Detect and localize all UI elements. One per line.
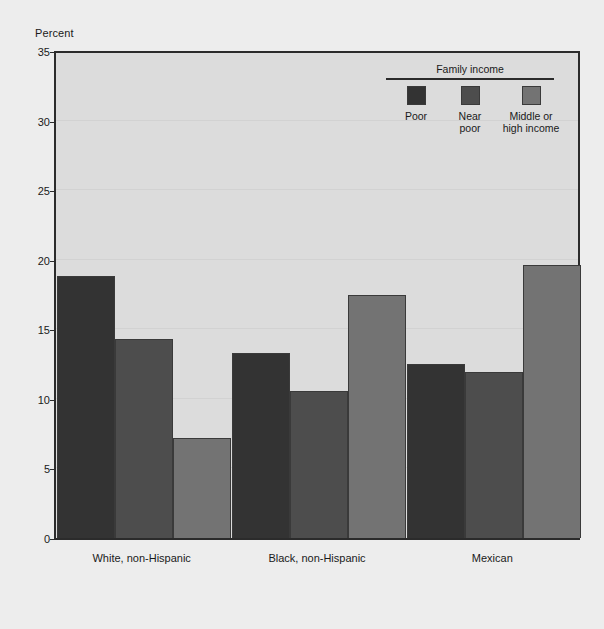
legend: Family income PoorNear poorMiddle or hig… — [386, 63, 554, 148]
bar — [290, 391, 348, 538]
legend-swatch — [461, 86, 480, 105]
bar — [348, 295, 406, 539]
legend-item: Poor — [394, 86, 438, 122]
legend-label: Poor — [394, 110, 438, 122]
x-axis-labels: White, non-HispanicBlack, non-HispanicMe… — [54, 552, 580, 576]
legend-title: Family income — [386, 63, 554, 75]
bar — [115, 339, 173, 538]
legend-item: Near poor — [446, 86, 494, 134]
legend-swatch — [407, 86, 426, 105]
legend-label: Middle or high income — [498, 110, 564, 134]
bar — [407, 364, 465, 538]
x-axis-label: Black, non-Hispanic — [268, 552, 365, 564]
x-axis-label: Mexican — [472, 552, 513, 564]
legend-item: Middle or high income — [498, 86, 564, 134]
y-axis-tick-marks — [0, 51, 56, 538]
bar — [523, 265, 581, 538]
legend-swatch — [522, 86, 541, 105]
x-axis-label: White, non-Hispanic — [92, 552, 190, 564]
bar — [232, 353, 290, 538]
legend-items: PoorNear poorMiddle or high income — [386, 86, 554, 148]
bar — [173, 438, 231, 538]
bar-chart: Percent 05101520253035 White, non-Hispan… — [0, 0, 604, 629]
legend-label: Near poor — [446, 110, 494, 134]
y-axis-title: Percent — [35, 27, 74, 39]
legend-divider — [386, 78, 554, 80]
bar — [57, 276, 115, 538]
bar — [465, 372, 523, 538]
